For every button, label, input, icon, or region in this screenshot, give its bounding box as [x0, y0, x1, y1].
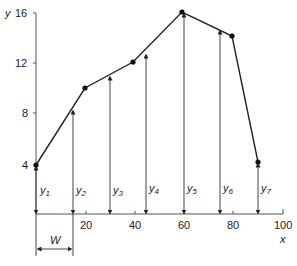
ordinate-diagram: y 16 12 8 4 20 40 60 80 100 x y1 y2 y3 y… [0, 0, 297, 266]
x-tick-60: 60 [178, 219, 190, 231]
svg-text:y3: y3 [112, 184, 124, 198]
width-label: W [50, 234, 62, 246]
y-tick-8: 8 [22, 107, 28, 119]
y-tick-16: 16 [15, 7, 27, 19]
y-tick-12: 12 [15, 57, 27, 69]
x-tick-20: 20 [80, 219, 92, 231]
x-tick-80: 80 [227, 219, 239, 231]
y-axis-label: y [4, 7, 12, 19]
x-tick-40: 40 [129, 219, 141, 231]
curve-line [36, 12, 258, 165]
svg-text:y6: y6 [222, 182, 234, 196]
ordinate-labels: y1 y2 y3 y4 y5 y6 y7 [39, 182, 272, 198]
x-tick-100: 100 [274, 219, 292, 231]
x-axis-label: x [279, 233, 286, 245]
svg-text:y7: y7 [260, 182, 272, 196]
svg-text:y1: y1 [39, 184, 50, 198]
y-tick-4: 4 [22, 159, 28, 171]
svg-text:y2: y2 [75, 184, 87, 198]
svg-text:y4: y4 [148, 182, 160, 196]
svg-text:y5: y5 [186, 182, 198, 196]
